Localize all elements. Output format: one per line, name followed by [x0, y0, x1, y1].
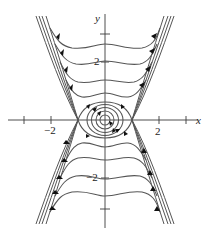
x-axis-label: x: [195, 114, 201, 126]
phase-portrait-plot: y x −2 2 2 −2: [0, 0, 208, 240]
direction-arrows: [49, 33, 160, 211]
x-tick-label-neg2: −2: [44, 124, 56, 136]
x-tick-label-2: 2: [155, 125, 161, 137]
phase-portrait-figure: y x −2 2 2 −2: [0, 0, 208, 240]
y-axis-label: y: [94, 12, 100, 24]
y-tick-label-2: 2: [94, 55, 100, 67]
